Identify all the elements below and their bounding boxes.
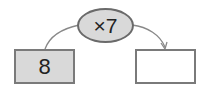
operator-label: ×7 bbox=[94, 14, 118, 38]
incoming-curve bbox=[45, 25, 79, 49]
output-box[interactable] bbox=[135, 49, 196, 84]
outgoing-curve bbox=[132, 25, 165, 47]
input-box: 8 bbox=[14, 49, 75, 84]
operator-ellipse: ×7 bbox=[77, 8, 134, 43]
input-value: 8 bbox=[38, 54, 50, 80]
